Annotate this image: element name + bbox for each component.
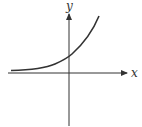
- x-axis-label: x: [131, 66, 138, 80]
- y-axis-label: y: [65, 0, 73, 13]
- exponential-curve: [11, 16, 99, 71]
- chart-canvas: x y: [0, 0, 142, 127]
